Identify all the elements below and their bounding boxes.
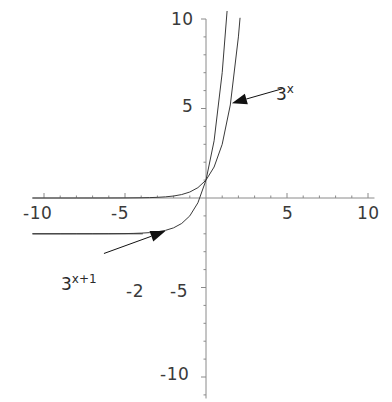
y-tick-label-pos5: 5 — [182, 96, 193, 116]
annotation-arrowhead — [150, 231, 166, 241]
asymptote-label-neg2: -2 — [126, 281, 144, 301]
exponential-plot-figure: -10 -5 5 10 10 5 -5 -10 -2 3x 3x+1 — [0, 0, 392, 402]
x-tick-label-pos5: 5 — [282, 203, 293, 223]
axes-layer — [33, 19, 375, 398]
curve-1 — [33, 18, 240, 198]
plot-canvas — [0, 0, 392, 402]
curve-label-exponent-2: x+1 — [72, 272, 97, 286]
label-3-to-x — [232, 89, 282, 105]
x-tick-label-neg5: -5 — [111, 203, 129, 223]
y-tick-label-neg10: -10 — [160, 364, 189, 384]
annotation-leader-line — [104, 236, 151, 253]
curve-2 — [33, 11, 227, 233]
y-tick-label-neg5: -5 — [170, 281, 188, 301]
curve-label-base-1: 3 — [276, 84, 287, 104]
curve-label-base-2: 3 — [61, 274, 72, 294]
y-tick-label-pos10: 10 — [171, 9, 194, 29]
annotation-arrowhead — [232, 94, 248, 105]
curve-label-3-to-the-x-plus-1: 3x+1 — [61, 274, 97, 294]
curves-layer — [33, 11, 240, 233]
curve-label-exponent-1: x — [287, 82, 294, 96]
label-3-to-x-plus-1 — [104, 231, 166, 253]
x-tick-label-neg10: -10 — [23, 203, 52, 223]
curve-label-3-to-the-x: 3x — [276, 84, 294, 104]
x-tick-label-pos10: 10 — [357, 203, 380, 223]
